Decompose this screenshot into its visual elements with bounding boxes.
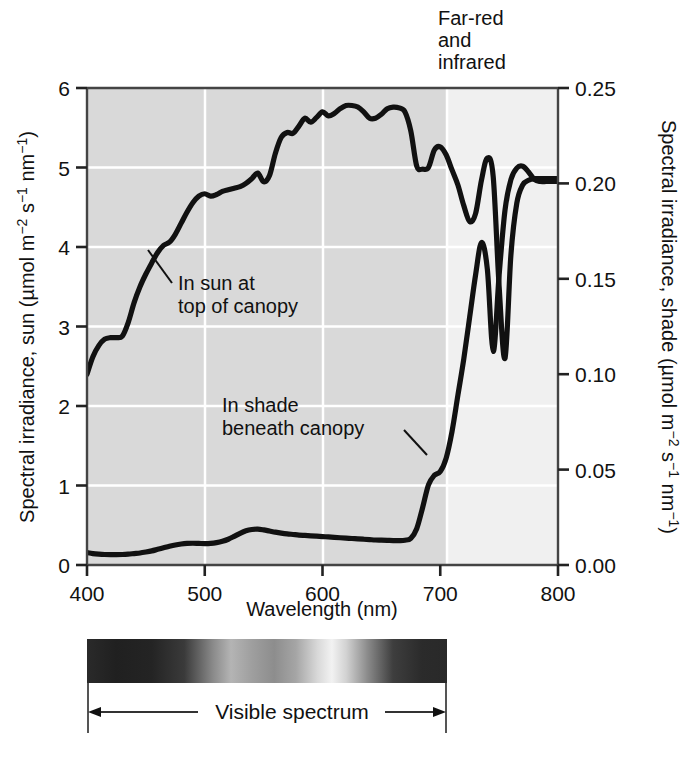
y-left-tick-label: 3 (58, 316, 70, 339)
y-right-title-end: ) (658, 527, 680, 534)
x-axis-title: Wavelength (nm) (246, 598, 398, 620)
y-right-tick-label: 0.05 (575, 459, 616, 482)
x-tick-label: 700 (423, 582, 458, 605)
far-red-line-3: infrared (438, 51, 506, 73)
y-left-title-sup2: −1 (14, 187, 30, 203)
arrow-head-left-icon (88, 707, 101, 717)
arrow-head-right-icon (433, 707, 446, 717)
y-right-title-sup3: −1 (666, 511, 682, 527)
y-axis-left-title: Spectral irradiance, sun (µmol m−2 s−1 n… (14, 131, 38, 523)
y-left-tick-label: 1 (58, 475, 70, 498)
x-axis-ticks (87, 565, 558, 576)
visible-spectrum-arrow: Visible spectrum (88, 700, 446, 723)
y-right-title-sup2: −1 (666, 462, 682, 478)
y-right-tick-label: 0.00 (575, 554, 616, 577)
y-right-tick-label: 0.25 (575, 77, 616, 100)
shade-callout-line-1: In shade (222, 394, 299, 416)
y-left-title-sup1: −2 (14, 218, 30, 234)
x-tick-label: 500 (187, 582, 222, 605)
y-axis-right-tick-labels: 0.000.050.100.150.200.25 (575, 77, 616, 577)
y-right-title-mid2: nm (658, 478, 680, 511)
spectral-irradiance-figure: 0123456 0.000.050.100.150.200.25 4005006… (0, 0, 692, 757)
far-red-region-label: Far-red and infrared (438, 7, 506, 73)
y-right-title-main: Spectral irradiance, shade (µmol m (658, 120, 680, 431)
y-left-title-mid2: nm (16, 154, 38, 187)
y-left-tick-label: 6 (58, 77, 70, 100)
y-left-tick-label: 0 (58, 554, 70, 577)
shade-callout-line-2: beneath canopy (222, 417, 364, 439)
y-axis-right-title: Spectral irradiance, shade (µmol m−2 s−1… (658, 120, 682, 534)
visible-spectrum-bar (87, 639, 447, 683)
far-red-line-1: Far-red (438, 7, 504, 29)
visible-spectrum-label: Visible spectrum (215, 700, 369, 723)
chart-canvas: 0123456 0.000.050.100.150.200.25 4005006… (0, 0, 692, 757)
y-left-title-sup3: −1 (14, 138, 30, 154)
y-axis-left-tick-labels: 0123456 (58, 77, 70, 577)
x-tick-label: 400 (69, 582, 104, 605)
y-left-tick-label: 5 (58, 157, 70, 180)
y-right-title-sup1: −2 (666, 431, 682, 447)
y-right-tick-label: 0.20 (575, 172, 616, 195)
y-right-tick-label: 0.10 (575, 363, 616, 386)
sun-callout-line-1: In sun at (178, 272, 255, 294)
y-right-title-mid: s (658, 447, 680, 463)
far-red-line-2: and (438, 29, 471, 51)
y-left-tick-label: 4 (58, 236, 70, 259)
x-tick-label: 800 (540, 582, 575, 605)
y-right-tick-label: 0.15 (575, 268, 616, 291)
y-left-title-main: Spectral irradiance, sun (µmol m (16, 235, 38, 523)
y-left-title-end: ) (16, 131, 38, 138)
y-left-title-mid: s (16, 203, 38, 219)
y-axis-left-ticks (76, 88, 87, 565)
y-axis-right-ticks (558, 88, 569, 565)
sun-callout-line-2: top of canopy (178, 295, 298, 317)
y-left-tick-label: 2 (58, 395, 70, 418)
